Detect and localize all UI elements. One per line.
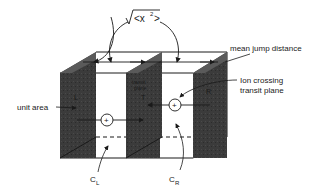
formula-radicand: <x [134, 13, 145, 24]
plane-transit-symbol: T [141, 94, 146, 101]
svg-text:+: + [172, 101, 177, 110]
conc-left-sub: L [96, 180, 100, 186]
plane-right-label: R [206, 88, 211, 95]
rms-formula: <x 2 > [126, 10, 160, 24]
conc-right-sub: R [175, 180, 180, 186]
plane-left [60, 52, 96, 158]
mean-jump-leader [225, 54, 250, 62]
plane-left-label: L [74, 94, 78, 101]
ion-crossing-label-1: Ion crossing [240, 76, 283, 85]
mean-jump-distance-label: mean jump distance [230, 44, 302, 53]
svg-text:+: + [104, 116, 109, 125]
unit-area-label: unit area [17, 103, 49, 112]
ion-crossing-label-2: transit plane [240, 86, 284, 95]
formula-close: > [154, 13, 160, 24]
conc-left-leader [98, 146, 108, 172]
plane-transit-label-2: plane [134, 85, 146, 91]
ion-diffusion-diagram: L transit plane T R <x 2 > mean jump dis… [0, 0, 325, 189]
conc-right-leader [176, 124, 183, 170]
